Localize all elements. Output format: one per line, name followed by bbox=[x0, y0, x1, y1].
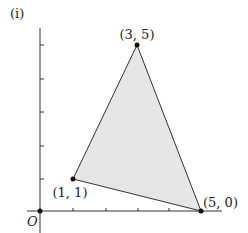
point-origin bbox=[38, 209, 43, 214]
vertex-label-1-1: (1, 1) bbox=[53, 185, 88, 200]
point-1-1 bbox=[71, 177, 76, 182]
triangle-region bbox=[73, 45, 201, 211]
origin-label: O bbox=[27, 214, 38, 229]
vertex-label-3-5: (3, 5) bbox=[120, 27, 155, 42]
y-ticks bbox=[40, 45, 44, 179]
vertex-label-5-0: (5, 0) bbox=[203, 195, 238, 210]
point-3-5 bbox=[135, 43, 140, 48]
coordinate-diagram: (i) (3, 5) (1, 1) (5, 0) O bbox=[0, 0, 248, 233]
part-label: (i) bbox=[10, 6, 24, 21]
